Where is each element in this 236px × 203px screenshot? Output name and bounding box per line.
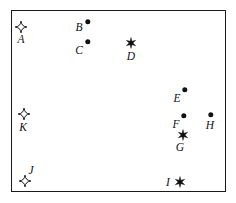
data-point-marker-f [181,113,186,118]
data-point-marker-a [15,21,28,34]
data-point-label-e: E [173,92,180,104]
data-point-label-g: G [176,141,184,153]
data-point-marker-c [85,39,90,44]
data-point-marker-b [85,19,90,24]
data-point-label-k: K [19,121,27,133]
data-point-marker-h [208,112,213,117]
point-group: ABCDEFGHIJK [0,0,236,203]
data-point-label-h: H [206,119,214,131]
data-point-label-a: A [17,33,24,45]
data-point-label-d: D [127,50,135,62]
data-point-label-j: J [28,164,33,176]
data-point-label-i: I [166,176,170,188]
data-point-label-b: B [75,21,82,33]
data-point-marker-i [174,176,187,189]
data-point-marker-g [177,129,190,142]
data-point-label-c: C [75,44,83,56]
data-point-marker-j [19,175,32,188]
data-point-marker-k [18,108,31,121]
data-point-marker-e [182,87,187,92]
scatter-figure: ABCDEFGHIJK [0,0,236,203]
data-point-marker-d [125,37,138,50]
